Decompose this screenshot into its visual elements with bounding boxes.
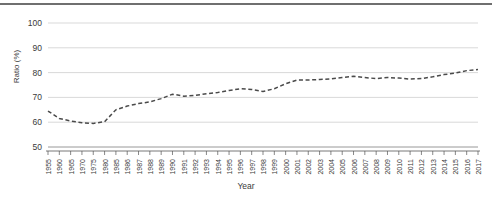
x-tick-label: 2008 (373, 159, 380, 175)
x-tick-labels-group: 1955196019651970197519801985198619871988… (45, 159, 482, 175)
x-tick-label: 2016 (464, 159, 471, 175)
x-tick-label: 1993 (203, 159, 210, 175)
x-tick-label: 2007 (362, 159, 369, 175)
x-tick-label: 2015 (452, 159, 459, 175)
x-tick-label: 2000 (283, 159, 290, 175)
x-tick-label: 2005 (339, 159, 346, 175)
x-tick-label: 1990 (169, 159, 176, 175)
x-tick-label: 2009 (384, 159, 391, 175)
x-tick-label: 1999 (271, 159, 278, 175)
y-tick-label: 80 (33, 68, 43, 78)
x-tick-label: 2006 (351, 159, 358, 175)
y-tick-labels-group: 5060708090100 (28, 18, 42, 152)
y-tick-label: 100 (28, 18, 42, 28)
x-tick-label: 1975 (90, 159, 97, 175)
x-tick-label: 2010 (396, 159, 403, 175)
x-tick-label: 1998 (260, 159, 267, 175)
x-tick-label: 1987 (136, 159, 143, 175)
x-tick-label: 1991 (181, 159, 188, 175)
x-tick-label: 2003 (317, 159, 324, 175)
x-tick-label: 2011 (407, 159, 414, 174)
data-series-line-group (48, 70, 478, 124)
x-tick-label: 2014 (441, 159, 448, 175)
y-tick-label: 70 (33, 92, 43, 102)
x-tick-label: 1992 (192, 159, 199, 175)
x-tick-label: 1960 (56, 159, 63, 175)
x-tick-label: 1986 (124, 159, 131, 175)
x-axis-group (46, 151, 480, 155)
x-tick-label: 1988 (147, 159, 154, 175)
y-tick-label: 90 (33, 43, 43, 53)
x-tick-label: 2017 (475, 159, 482, 175)
x-tick-label: 1995 (226, 159, 233, 175)
x-tick-label: 1985 (113, 159, 120, 175)
line-chart-svg: 5060708090100 19551960196519701975198019… (0, 0, 492, 200)
y-axis-title: Ratio (%) (12, 37, 21, 97)
x-tick-label: 1970 (79, 159, 86, 175)
x-tick-label: 1980 (102, 159, 109, 175)
x-tick-label: 1994 (215, 159, 222, 175)
x-tick-label: 2004 (328, 159, 335, 175)
x-tick-label: 1955 (45, 159, 52, 175)
y-tick-label: 60 (33, 117, 43, 127)
x-tick-label: 2013 (430, 159, 437, 175)
x-tick-label: 2002 (305, 159, 312, 175)
x-tick-label: 1996 (237, 159, 244, 175)
gridlines-group (48, 23, 478, 147)
x-tick-label: 1989 (158, 159, 165, 175)
chart-figure: 5060708090100 19551960196519701975198019… (0, 0, 492, 200)
x-tick-label: 2001 (294, 159, 301, 175)
x-tick-label: 1997 (249, 159, 256, 175)
x-tick-label: 2012 (418, 159, 425, 175)
y-tick-label: 50 (33, 142, 43, 152)
x-axis-title: Year (0, 181, 492, 191)
x-tick-label: 1965 (68, 159, 75, 175)
ratio-series-line (48, 70, 478, 124)
plot-area: 5060708090100 19551960196519701975198019… (0, 0, 492, 200)
